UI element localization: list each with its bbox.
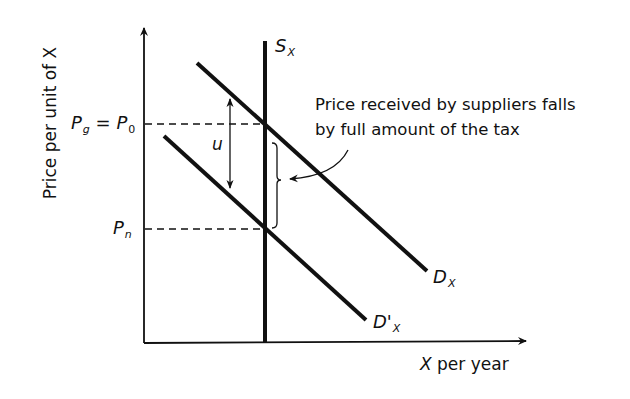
x-axis-var: X [420,354,432,374]
pn-main: P [113,217,124,238]
x-axis-label: X per year [420,356,509,373]
pn-label: Pn [113,219,132,237]
supply-label-main: S [275,35,286,56]
shifted-demand-label-main: D' [373,311,392,332]
supply-label: SX [275,37,295,55]
annotation-text: Price received by suppliers falls by ful… [315,92,576,142]
annotation-line-2: by full amount of the tax [315,117,576,142]
demand-label: DX [433,268,455,286]
pg-sub: g [83,123,90,136]
pn-sub: n [125,228,132,241]
supply-demand-diagram [0,0,630,399]
tax-label: u [212,136,223,153]
annotation-line-1: Price received by suppliers falls [315,92,576,117]
y-axis-label: Price per unit of X [40,47,60,199]
x-axis-rest: per year [432,354,509,374]
x-axis [144,341,526,343]
shifted-demand-label: D'X [373,313,400,331]
p0-label: Pg = P0 [71,114,135,132]
equals-sign: = [90,112,117,133]
shifted-demand-label-sub: X [393,322,401,335]
price-drop-brace [272,143,281,228]
demand-label-sub: X [448,277,456,290]
demand-label-main: D [433,266,447,287]
p0-main: P [116,112,127,133]
pg-main: P [71,112,82,133]
supply-label-sub: X [287,46,295,59]
p0-sub: 0 [128,123,135,136]
